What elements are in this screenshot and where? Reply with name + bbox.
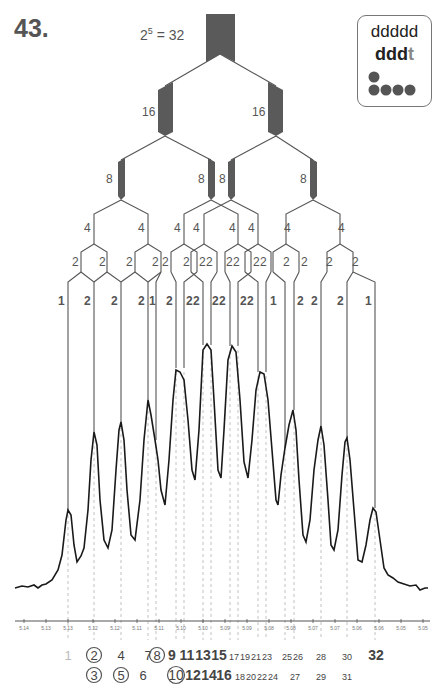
- peak-number: 24: [268, 672, 278, 682]
- peak-number: 20: [246, 672, 256, 682]
- level4-label: 2: [72, 255, 79, 269]
- peak-number: 3: [90, 668, 97, 683]
- level2-label: 8: [219, 172, 226, 186]
- level3-label: 4: [84, 221, 91, 235]
- level5-label: 2: [311, 294, 318, 308]
- axis-tick-label: 5.08: [264, 625, 274, 631]
- level3-label: 4: [248, 221, 255, 235]
- level5-label: 2: [84, 294, 91, 308]
- peak-number: 4: [117, 648, 124, 663]
- level4-label: 2: [260, 255, 267, 269]
- level5-label: 2: [138, 294, 145, 308]
- axis-tick-label: 5.08: [286, 625, 296, 631]
- peak-number: 19: [240, 652, 250, 662]
- level3-label: 4: [229, 221, 236, 235]
- peak-number: 2: [90, 648, 97, 663]
- peak-number: 28: [316, 652, 326, 662]
- level2-label: 8: [300, 172, 307, 186]
- axis-tick-label: 5.11: [132, 625, 142, 631]
- level5-label: 2: [186, 294, 193, 308]
- peak-number: 17: [229, 652, 239, 662]
- level5-label: 2: [219, 294, 226, 308]
- peak-number: 15: [211, 647, 227, 663]
- axis-tick-label: 5.05: [418, 625, 428, 631]
- level5-label: 2: [247, 294, 254, 308]
- axis-tick-label: 5.13: [41, 625, 51, 631]
- level4-label: 2: [152, 255, 159, 269]
- level5-label: 2: [240, 294, 247, 308]
- level5-label: 2: [297, 294, 304, 308]
- nmr-spectrum-trace: [15, 344, 428, 590]
- level1-label: 16: [142, 105, 156, 119]
- peak-number: 11: [180, 647, 195, 663]
- splitting-tree-diagram: 25 = 32 16 16 8 8 8 8 4 4 4 4 4 4 4 4 2 …: [0, 0, 446, 698]
- peak-number: 21: [251, 652, 261, 662]
- root-label: 25 = 32: [140, 26, 185, 43]
- level5-label: 2: [166, 294, 173, 308]
- level4-label: 2: [352, 255, 359, 269]
- axis-tick-label: 5.11: [154, 625, 164, 631]
- level4-label: 2: [206, 255, 213, 269]
- peak-number: 14: [201, 667, 217, 683]
- level5-label: 1: [149, 294, 156, 308]
- level5-label: 2: [212, 294, 219, 308]
- level3-label: 4: [174, 221, 181, 235]
- level5-label: 1: [58, 294, 65, 308]
- level4-label: 2: [253, 255, 260, 269]
- axis-tick-label: 5.09: [242, 625, 252, 631]
- level4-label: 2: [162, 255, 169, 269]
- axis-tick-label: 5.06: [352, 625, 362, 631]
- level3-label: 4: [338, 221, 345, 235]
- peak-number: 9: [168, 647, 176, 663]
- axis-tick-label: 5.09: [220, 625, 230, 631]
- peak-number: 25: [282, 652, 292, 662]
- level4-label: 2: [183, 255, 190, 269]
- level2-label: 8: [106, 172, 113, 186]
- peak-number: 18: [235, 672, 245, 682]
- level3-label: 4: [138, 221, 145, 235]
- axis-tick-label: 5.12: [110, 625, 120, 631]
- level2-label: 8: [198, 172, 205, 186]
- level5-label: 2: [111, 294, 118, 308]
- axis-tick-label: 5.13: [63, 625, 73, 631]
- peak-number: 13: [195, 647, 211, 663]
- level4-label: 2: [283, 255, 290, 269]
- peak-number: 30: [342, 652, 352, 662]
- peak-number: 5: [117, 668, 124, 683]
- axis-tick-label: 5.14: [19, 625, 29, 631]
- peak-number: 32: [368, 647, 384, 663]
- axis-tick-label: 5.05: [396, 625, 406, 631]
- level4-label: 2: [99, 255, 106, 269]
- peak-number: 31: [342, 672, 352, 682]
- level3-label: 4: [193, 221, 200, 235]
- level3-label: 4: [284, 221, 291, 235]
- level4-label: 2: [226, 255, 233, 269]
- peak-number: 23: [262, 652, 272, 662]
- axis-tick-label: 5.10: [198, 625, 208, 631]
- peak-number: 16: [216, 667, 232, 683]
- level5-label: 1: [365, 294, 372, 308]
- peak-number: 12: [185, 667, 201, 683]
- axis-tick-label: 5.07: [330, 625, 340, 631]
- level5-label: 2: [193, 294, 200, 308]
- peak-number: 29: [316, 672, 326, 682]
- axis-tick-label: 5.12: [88, 625, 98, 631]
- level1-label: 16: [252, 105, 266, 119]
- level4-label: 2: [199, 255, 206, 269]
- level5-label: 2: [337, 294, 344, 308]
- peak-number: 27: [290, 672, 300, 682]
- peak-number: 1: [64, 648, 71, 663]
- level4-label: 2: [126, 255, 133, 269]
- peak-number: 26: [293, 652, 303, 662]
- level4-label: 2: [233, 255, 240, 269]
- axis-tick-label: 5.06: [374, 625, 384, 631]
- axis-tick-label: 5.10: [176, 625, 186, 631]
- peak-number: 8: [153, 648, 160, 663]
- level5-label: 1: [270, 294, 277, 308]
- level4-label: 2: [301, 255, 308, 269]
- peak-number: 6: [139, 668, 146, 683]
- axis-tick-label: 5.07: [308, 625, 318, 631]
- peak-number: 22: [257, 672, 267, 682]
- level4-label: 2: [326, 255, 333, 269]
